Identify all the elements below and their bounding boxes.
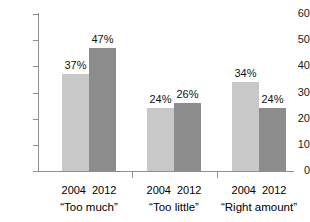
y-tick-mark xyxy=(33,119,38,120)
bar-value-label: 24% xyxy=(255,94,290,105)
year-label-2012: 2012 xyxy=(177,184,201,196)
y-tick-mark xyxy=(33,14,38,15)
y-tick-mark xyxy=(33,93,38,94)
year-label-2004: 2004 xyxy=(232,184,256,196)
y-tick-mark xyxy=(33,66,38,67)
bar-value-label: 26% xyxy=(170,89,205,100)
bar-2004-1[interactable] xyxy=(62,74,89,171)
bar-chart: 0102030405060 37%47%24%26%34%24% 2004201… xyxy=(0,0,310,222)
group-year-labels: 20042012 xyxy=(218,184,300,196)
y-tick-label: 50 xyxy=(280,34,310,45)
year-label-2004: 2004 xyxy=(147,184,171,196)
x-axis-line xyxy=(38,171,294,172)
y-tick-mark xyxy=(33,145,38,146)
group-separator-tick xyxy=(132,172,133,178)
year-label-2012: 2012 xyxy=(262,184,286,196)
bar-2012-3[interactable] xyxy=(259,108,286,171)
bar-2012-1[interactable] xyxy=(89,48,116,171)
group-separator-tick xyxy=(217,172,218,178)
group-year-labels: 20042012 xyxy=(133,184,215,196)
bar-value-label: 34% xyxy=(228,68,263,79)
y-tick-mark xyxy=(33,40,38,41)
bar-value-label: 37% xyxy=(58,60,93,71)
y-axis-line xyxy=(38,13,39,172)
bar-value-label: 47% xyxy=(85,34,120,45)
bar-2012-2[interactable] xyxy=(174,103,201,171)
year-label-2004: 2004 xyxy=(62,184,86,196)
year-label-2012: 2012 xyxy=(92,184,116,196)
y-tick-label: 40 xyxy=(280,60,310,71)
y-tick-mark xyxy=(33,171,38,172)
group-year-labels: 20042012 xyxy=(48,184,130,196)
bar-2004-2[interactable] xyxy=(147,108,174,171)
y-tick-label: 60 xyxy=(280,8,310,19)
group-category-label: “Right amount” xyxy=(202,201,310,214)
